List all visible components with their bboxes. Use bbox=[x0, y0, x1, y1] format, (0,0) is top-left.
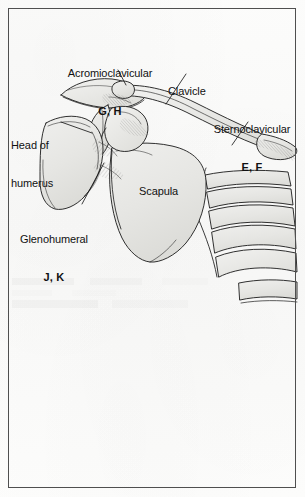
scanned-figure-page: Acromioclavicular G, H Clavicle Sternocl… bbox=[0, 0, 305, 497]
label-glenohumeral: Glenohumeral J, K bbox=[12, 208, 96, 308]
label-glenohumeral-code: J, K bbox=[12, 271, 96, 284]
label-acromioclavicular-name: Acromioclavicular bbox=[52, 67, 168, 80]
label-head-of-humerus-line1: Head of bbox=[11, 139, 73, 152]
label-scapula: Scapula bbox=[139, 160, 191, 223]
label-sternoclavicular-code: E, F bbox=[203, 161, 301, 174]
label-clavicle-name: Clavicle bbox=[168, 85, 230, 98]
label-sternoclavicular: Sternoclavicular E, F bbox=[203, 98, 301, 198]
label-head-of-humerus-line2: humerus bbox=[11, 177, 73, 190]
label-glenohumeral-name: Glenohumeral bbox=[12, 233, 96, 246]
label-head-of-humerus: Head of humerus bbox=[11, 114, 73, 214]
label-scapula-name: Scapula bbox=[139, 185, 191, 198]
label-sternoclavicular-name: Sternoclavicular bbox=[203, 123, 301, 136]
